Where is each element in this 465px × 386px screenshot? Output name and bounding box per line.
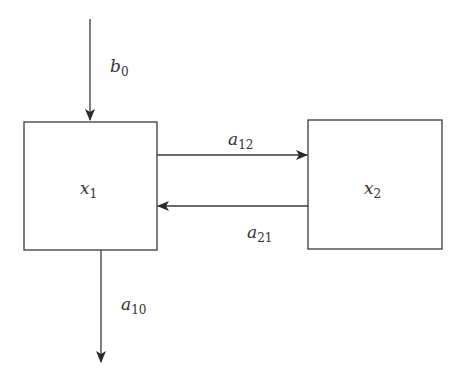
- label-a21: a21: [247, 222, 272, 245]
- label-b0: b0: [110, 56, 129, 79]
- compartment-x2: [308, 120, 442, 249]
- label-x1: x1: [80, 178, 97, 201]
- label-x2: x2: [364, 178, 381, 201]
- label-a12: a12: [228, 129, 253, 152]
- compartment-x1: [24, 122, 157, 250]
- compartment-diagram: b0 x1 x2 a12 a21 a10: [0, 0, 465, 386]
- label-a10: a10: [121, 294, 146, 317]
